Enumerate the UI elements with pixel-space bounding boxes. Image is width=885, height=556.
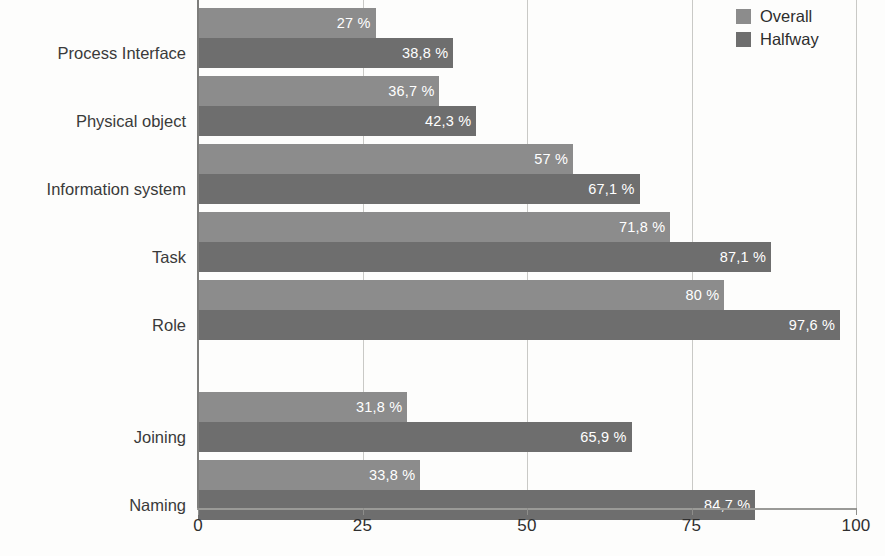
bar-role-overall: 80 % bbox=[198, 280, 724, 310]
x-tick-label-100: 100 bbox=[842, 516, 871, 536]
bar-information-system-overall: 57 % bbox=[198, 144, 573, 174]
x-tick-mark-50 bbox=[527, 508, 528, 515]
chart-legend: Overall Halfway bbox=[736, 6, 819, 50]
bar-process-interface-halfway: 38,8 % bbox=[198, 38, 453, 68]
x-tick-label-0: 0 bbox=[193, 516, 203, 536]
bar-value-label: 67,1 % bbox=[588, 181, 634, 197]
bar-value-label: 80 % bbox=[686, 287, 720, 303]
y-axis-line bbox=[197, 0, 199, 510]
legend-label-halfway: Halfway bbox=[760, 31, 819, 48]
bar-value-label: 31,8 % bbox=[356, 399, 402, 415]
bar-value-label: 84,7 % bbox=[704, 497, 750, 513]
legend-label-overall: Overall bbox=[760, 8, 812, 25]
legend-swatch-overall-icon bbox=[736, 9, 751, 24]
category-label-task: Task bbox=[0, 248, 186, 267]
category-label-information-system: Information system bbox=[0, 180, 186, 199]
bar-value-label: 65,9 % bbox=[580, 429, 626, 445]
bar-value-label: 33,8 % bbox=[369, 467, 415, 483]
plot-area: 27 %38,8 %36,7 %42,3 %57 %67,1 %71,8 %87… bbox=[198, 0, 856, 508]
bar-role-halfway: 97,6 % bbox=[198, 310, 840, 340]
bar-naming-overall: 33,8 % bbox=[198, 460, 420, 490]
bar-value-label: 36,7 % bbox=[388, 83, 434, 99]
category-label-naming: Naming bbox=[0, 496, 186, 515]
legend-item-overall: Overall bbox=[736, 6, 819, 27]
bar-value-label: 42,3 % bbox=[425, 113, 471, 129]
bar-task-overall: 71,8 % bbox=[198, 212, 670, 242]
bar-information-system-halfway: 67,1 % bbox=[198, 174, 640, 204]
x-tick-mark-0 bbox=[198, 508, 199, 515]
category-label-process-interface: Process Interface bbox=[0, 44, 186, 63]
bar-joining-overall: 31,8 % bbox=[198, 392, 407, 422]
bar-value-label: 97,6 % bbox=[789, 317, 835, 333]
bar-process-interface-overall: 27 % bbox=[198, 8, 376, 38]
bar-value-label: 27 % bbox=[337, 15, 371, 31]
bar-physical-object-halfway: 42,3 % bbox=[198, 106, 476, 136]
legend-swatch-halfway-icon bbox=[736, 32, 751, 47]
bar-joining-halfway: 65,9 % bbox=[198, 422, 632, 452]
category-label-role: Role bbox=[0, 316, 186, 335]
bar-value-label: 71,8 % bbox=[619, 219, 665, 235]
x-tick-label-25: 25 bbox=[353, 516, 372, 536]
legend-item-halfway: Halfway bbox=[736, 29, 819, 50]
category-label-physical-object: Physical object bbox=[0, 112, 186, 131]
x-tick-mark-75 bbox=[692, 508, 693, 515]
bar-naming-halfway: 84,7 % bbox=[198, 490, 755, 520]
bar-value-label: 57 % bbox=[534, 151, 568, 167]
bar-physical-object-overall: 36,7 % bbox=[198, 76, 439, 106]
x-tick-label-75: 75 bbox=[682, 516, 701, 536]
bar-task-halfway: 87,1 % bbox=[198, 242, 771, 272]
gridline-100 bbox=[856, 0, 857, 508]
bar-value-label: 87,1 % bbox=[720, 249, 766, 265]
bar-value-label: 38,8 % bbox=[402, 45, 448, 61]
x-tick-mark-100 bbox=[856, 508, 857, 515]
x-tick-mark-25 bbox=[363, 508, 364, 515]
x-tick-label-50: 50 bbox=[517, 516, 536, 536]
bar-chart: 27 %38,8 %36,7 %42,3 %57 %67,1 %71,8 %87… bbox=[0, 0, 885, 556]
category-label-joining: Joining bbox=[0, 428, 186, 447]
